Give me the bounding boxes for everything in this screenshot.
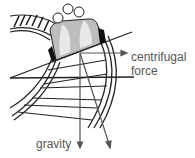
right-rails (88, 36, 116, 128)
centrifugal-label-line1: centrifugal (131, 51, 186, 63)
left-rails (10, 58, 60, 120)
coaster-car (48, 19, 106, 62)
centrifugal-label: centrifugal force (131, 51, 186, 77)
rider-head-1 (53, 13, 63, 23)
track-rungs (18, 60, 107, 120)
gravity-label: gravity (36, 138, 71, 150)
resultant-arrow (80, 53, 109, 144)
centrifugal-label-line2: force (131, 65, 186, 77)
upper-track (10, 15, 56, 40)
coaster-diagram (0, 0, 195, 158)
rider-head-3 (74, 7, 84, 17)
rider-head-2 (63, 4, 73, 14)
